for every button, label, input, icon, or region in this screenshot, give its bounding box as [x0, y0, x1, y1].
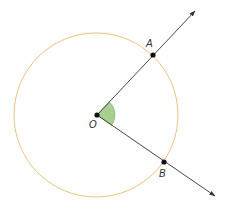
label-a: A — [145, 38, 153, 49]
point-o — [94, 112, 99, 117]
point-a — [150, 52, 155, 57]
ray-oa — [97, 11, 195, 115]
point-b — [161, 159, 166, 164]
geometry-diagram: O A B — [0, 0, 225, 209]
label-o: O — [89, 119, 97, 130]
label-b: B — [159, 168, 166, 179]
ray-ob — [97, 115, 215, 196]
